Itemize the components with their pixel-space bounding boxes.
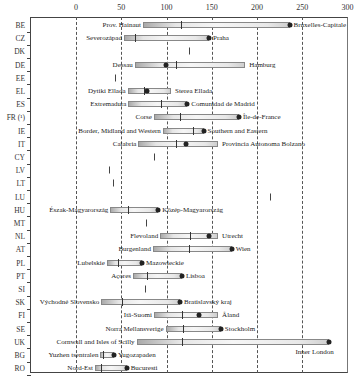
gridline bbox=[212, 17, 213, 373]
country-label: SI bbox=[0, 285, 25, 294]
range-bar bbox=[133, 273, 182, 279]
range-bar bbox=[128, 88, 171, 94]
range-bar bbox=[124, 35, 209, 41]
y-tick bbox=[27, 150, 31, 151]
country-label: BE bbox=[0, 21, 25, 30]
max-region-label: Comunidad de Madrid bbox=[191, 100, 254, 108]
min-region-label: Burgenland bbox=[118, 245, 151, 253]
capital-region-dot bbox=[184, 141, 189, 146]
x-tick-label: 250 bbox=[296, 3, 308, 12]
min-region-label: Border, Midland and Western bbox=[78, 127, 161, 135]
y-tick bbox=[27, 190, 31, 191]
country-label: PT bbox=[0, 271, 25, 280]
single-region-marker bbox=[145, 286, 146, 293]
max-region-label: Hamburg bbox=[249, 61, 275, 69]
single-region-marker bbox=[270, 193, 271, 200]
gridline bbox=[121, 17, 122, 373]
y-tick bbox=[27, 84, 31, 85]
x-tick-label: 200 bbox=[251, 3, 263, 12]
y-tick bbox=[27, 230, 31, 231]
x-tick-label: 100 bbox=[161, 3, 173, 12]
range-bar bbox=[107, 260, 142, 266]
max-region-label: Île-de-France bbox=[243, 113, 281, 121]
country-label: FI bbox=[0, 311, 25, 320]
range-bar bbox=[110, 207, 158, 213]
min-region-label: Dytiki Ellada bbox=[88, 87, 126, 95]
country-label: EE bbox=[0, 73, 25, 82]
country-label: FR (¹) bbox=[0, 113, 25, 122]
capital-region-dot bbox=[144, 89, 149, 94]
range-bar bbox=[166, 326, 221, 332]
country-label: BG bbox=[0, 351, 25, 360]
y-tick bbox=[27, 137, 31, 138]
capital-region-dot bbox=[124, 366, 129, 371]
single-region-marker bbox=[115, 74, 116, 81]
single-region-marker bbox=[146, 220, 147, 227]
gridline bbox=[76, 17, 77, 373]
range-bar bbox=[154, 114, 239, 120]
min-region-label: Yuzhen tsentralen bbox=[48, 351, 98, 359]
capital-region-dot bbox=[201, 128, 206, 133]
min-region-label: Cornwall and Isles of Scilly bbox=[56, 338, 134, 346]
capital-region-dot bbox=[327, 339, 332, 344]
y-tick bbox=[27, 216, 31, 217]
capital-region-dot bbox=[287, 23, 292, 28]
y-tick bbox=[27, 98, 31, 99]
y-tick bbox=[27, 282, 31, 283]
range-bar bbox=[143, 22, 290, 28]
max-region-label: Közép-Magyarország bbox=[162, 206, 223, 214]
median-marker bbox=[128, 206, 129, 214]
y-tick bbox=[27, 348, 31, 349]
y-tick bbox=[27, 164, 31, 165]
y-tick bbox=[27, 256, 31, 257]
range-bar bbox=[154, 312, 218, 318]
y-tick bbox=[27, 296, 31, 297]
median-marker bbox=[122, 298, 123, 306]
min-region-label: Východné Slovensko bbox=[40, 298, 100, 306]
range-bar bbox=[135, 62, 245, 68]
min-region-label: Lubelskie bbox=[77, 259, 105, 267]
max-region-label: Lisboa bbox=[186, 272, 205, 280]
country-label: IT bbox=[0, 139, 25, 148]
min-region-label: Itä-Suomi bbox=[124, 311, 152, 319]
capital-region-dot bbox=[140, 260, 145, 265]
country-label: DE bbox=[0, 60, 25, 69]
median-marker bbox=[135, 34, 136, 42]
gridline bbox=[257, 17, 258, 373]
min-region-label: Calabria bbox=[113, 140, 137, 148]
min-region-label: Prov. Hainaut bbox=[103, 21, 141, 29]
country-label: LU bbox=[0, 192, 25, 201]
y-tick bbox=[27, 322, 31, 323]
range-bar bbox=[101, 299, 180, 305]
y-tick bbox=[27, 362, 31, 363]
country-label: SE bbox=[0, 324, 25, 333]
capital-region-dot bbox=[207, 36, 212, 41]
max-region-label: Sterea Ellada bbox=[175, 87, 212, 95]
max-region-label: Yugozapaden bbox=[118, 351, 156, 359]
median-marker bbox=[183, 325, 184, 333]
y-tick bbox=[27, 269, 31, 270]
country-label: EL bbox=[0, 87, 25, 96]
country-label: CY bbox=[0, 153, 25, 162]
median-marker bbox=[189, 245, 190, 253]
y-tick bbox=[27, 32, 31, 33]
max-region-label: Bucuresti bbox=[131, 364, 158, 372]
min-region-label: Corse bbox=[135, 113, 151, 121]
capital-region-dot bbox=[185, 102, 190, 107]
median-marker bbox=[193, 127, 194, 135]
median-marker bbox=[118, 259, 119, 267]
capital-region-dot bbox=[207, 234, 212, 239]
country-label: MT bbox=[0, 219, 25, 228]
country-label: PL bbox=[0, 258, 25, 267]
range-bar bbox=[128, 101, 187, 107]
range-bar bbox=[153, 246, 232, 252]
y-tick bbox=[27, 375, 31, 376]
min-region-label: Észak-Magyarország bbox=[49, 206, 108, 214]
country-label: NL bbox=[0, 232, 25, 241]
min-region-label: Severozápad bbox=[86, 34, 122, 42]
y-tick bbox=[27, 71, 31, 72]
max-region-label: Bratislavský kraj bbox=[184, 298, 232, 306]
single-region-marker bbox=[154, 154, 155, 161]
median-marker bbox=[181, 21, 182, 29]
country-label: HU bbox=[0, 205, 25, 214]
